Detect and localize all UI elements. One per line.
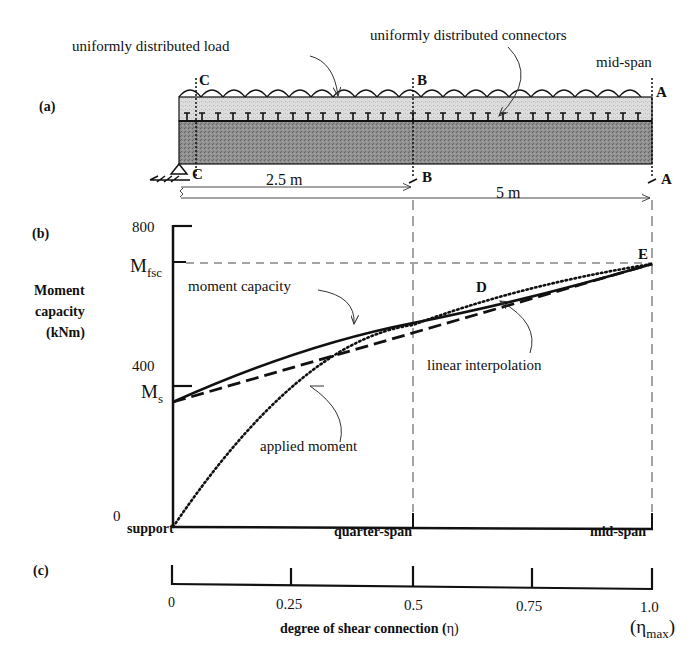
section-c-bottom: C (192, 166, 203, 183)
eta-tick-0-25: 0.25 (276, 596, 302, 613)
y-axis-label-line3: (kNm) (46, 325, 85, 341)
label-moment-capacity: moment capacity (188, 278, 291, 295)
point-label-d: D (476, 279, 487, 296)
section-b-top: B (417, 72, 427, 89)
label-applied-moment: applied moment (260, 438, 357, 455)
panel-label-b: (b) (32, 226, 49, 242)
x-label-support: support (127, 521, 174, 537)
point-label-e: E (638, 246, 648, 263)
connectors-annotation: uniformly distributed connectors (370, 27, 567, 44)
eta-axis (172, 565, 653, 589)
section-a-top: A (656, 84, 667, 101)
panel-label-c: (c) (33, 563, 49, 579)
applied-moment-curve (173, 264, 652, 527)
figure-canvas (0, 0, 697, 659)
y-axis-label-line1: Moment (34, 283, 85, 299)
concrete-slab (179, 97, 652, 121)
x-label-quarter-span: quarter-span (334, 524, 412, 540)
pin-support-icon (150, 164, 190, 182)
dimension-lines (180, 187, 650, 198)
dimension-5m: 5 m (496, 184, 520, 202)
y-symbol-mfsc: Mfsc (130, 255, 162, 281)
eta-tick-0-5: 0.5 (404, 597, 423, 614)
eta-tick-1-0: 1.0 (640, 599, 659, 616)
midspan-annotation: mid-span (596, 54, 652, 71)
eta-max-label: (ηmax) (630, 616, 675, 642)
composite-beam (150, 47, 656, 198)
moment-chart (173, 200, 653, 529)
section-a-bottom: A (661, 171, 672, 188)
udl-annotation: uniformly distributed load (72, 38, 229, 55)
section-b-bottom: B (422, 169, 432, 186)
eta-tick-0-75: 0.75 (516, 598, 542, 615)
dimension-2-5m: 2.5 m (266, 171, 302, 189)
label-linear-interpolation: linear interpolation (427, 357, 542, 374)
steel-beam (179, 121, 652, 164)
panel-label-a: (a) (39, 99, 55, 115)
distributed-load-arcs (179, 90, 641, 97)
y-tick-400: 400 (132, 358, 155, 375)
y-tick-0: 0 (113, 508, 121, 525)
eta-tick-0: 0 (168, 595, 175, 611)
eta-axis-label: degree of shear connection (η) (280, 621, 459, 637)
y-tick-800: 800 (132, 219, 155, 236)
section-c-top: C (199, 72, 210, 89)
x-label-mid-span: mid-span (590, 524, 646, 540)
y-axis-label-line2: capacity (35, 304, 85, 320)
y-symbol-ms: Ms (141, 381, 163, 407)
